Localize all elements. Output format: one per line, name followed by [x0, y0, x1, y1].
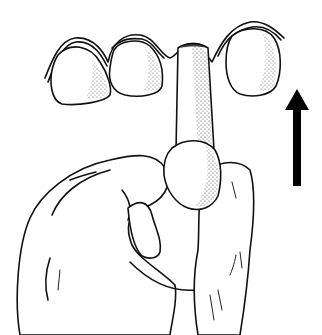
- dental-illustration: [0, 0, 322, 335]
- illustration-canvas: [0, 0, 322, 335]
- teeth-row: [51, 29, 280, 105]
- up-arrow-icon: [285, 89, 309, 186]
- thumb-pad: [164, 141, 221, 210]
- dental-stick: [176, 43, 214, 150]
